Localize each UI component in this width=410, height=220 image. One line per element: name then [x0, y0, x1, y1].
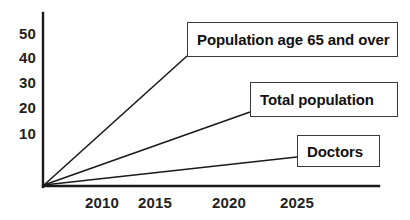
- y-axis-tick-50: 50: [2, 25, 36, 42]
- x-axis-tick-2010: 2010: [74, 194, 130, 211]
- chart-figure: 50 40 30 20 10 2010 2015 2020 2025 Popul…: [0, 0, 410, 220]
- x-axis-tick-2025: 2025: [269, 194, 325, 211]
- callout-population-65-label: Population age 65 and over: [188, 31, 389, 48]
- y-axis-tick-30: 30: [2, 74, 36, 91]
- x-axis-tick-2015: 2015: [127, 194, 183, 211]
- callout-doctors-label: Doctors: [298, 143, 363, 160]
- callout-total-population: Total population: [250, 82, 398, 117]
- x-axis-tick-2020: 2020: [201, 194, 257, 211]
- callout-total-population-label: Total population: [251, 91, 374, 108]
- callout-doctors: Doctors: [297, 135, 380, 167]
- y-axis-tick-20: 20: [2, 99, 36, 116]
- y-axis-tick-10: 10: [2, 125, 36, 142]
- callout-population-65: Population age 65 and over: [187, 22, 398, 57]
- y-axis-tick-40: 40: [2, 49, 36, 66]
- series-line-population-65: [44, 56, 187, 185]
